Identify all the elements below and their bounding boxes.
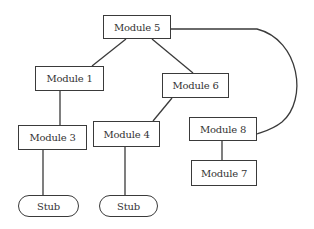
node-module-7: Module 7 — [191, 160, 257, 186]
node-stub-2: Stub — [99, 195, 158, 217]
node-module-5: Module 5 — [103, 15, 171, 39]
node-module-4: Module 4 — [93, 121, 160, 147]
edge-m5-m6 — [152, 39, 193, 73]
node-module-6: Module 6 — [162, 73, 229, 98]
edge-m5-m1 — [92, 39, 126, 66]
edge-m6-m4 — [153, 98, 172, 121]
node-module-1: Module 1 — [35, 66, 104, 91]
node-module-3: Module 3 — [18, 125, 87, 150]
node-module-8: Module 8 — [189, 117, 257, 141]
node-stub-1: Stub — [18, 195, 79, 217]
